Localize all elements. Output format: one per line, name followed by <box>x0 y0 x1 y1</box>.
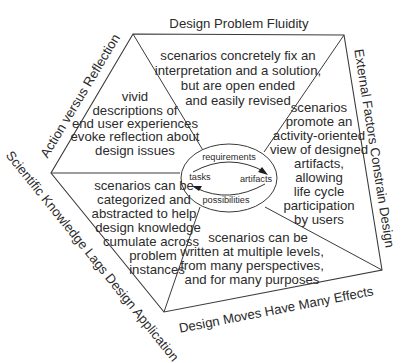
edge-label-bottom: Design Moves Have Many Effects <box>178 283 375 336</box>
cycle-label-artifacts: artifacts <box>240 174 273 184</box>
segment-top-line: scenarios concretely fix an <box>160 48 315 63</box>
segment-lower-left-line: categorized and <box>97 192 191 207</box>
segment-top-line: and easily revised <box>185 93 291 108</box>
segment-right-line: promote an <box>286 114 353 129</box>
segment-lower-left-line: abstracted to help <box>92 206 197 221</box>
segment-right-line: allowing <box>295 170 343 185</box>
segment-upper-left-text: vivid descriptions of end user experienc… <box>70 89 199 158</box>
segment-top-text: scenarios concretely fix an interpretati… <box>155 48 321 108</box>
segment-bottom-line: scenarios can be <box>208 230 308 245</box>
edge-label-top: Design Problem Fluidity <box>169 16 309 31</box>
segment-right-line: participation <box>283 198 354 213</box>
segment-bottom-line: written at multiple levels, <box>179 244 324 259</box>
segment-top-line: interpretation and a solution, <box>155 63 321 78</box>
segment-bottom-line: and for many purposes <box>185 272 320 287</box>
segment-bottom-text: scenarios can be written at multiple lev… <box>179 230 324 287</box>
segment-upper-left-line: vivid <box>122 89 148 104</box>
segment-right-line: view of designed <box>270 142 368 157</box>
segment-upper-left-line: evoke reflection about <box>70 129 199 144</box>
segment-right-line: artifacts, <box>294 156 344 171</box>
segment-upper-left-line: design issues <box>95 143 175 158</box>
segment-lower-left-line: design knowledge <box>95 220 201 235</box>
segment-right-line: by users <box>294 212 344 227</box>
segment-lower-left-line: problem <box>129 248 177 263</box>
segment-right-line: life cycle <box>294 184 345 199</box>
segment-right-text: scenarios promote an activity-oriented v… <box>270 100 368 227</box>
task-artifact-framework-diagram: requirements artifacts possibilities tas… <box>0 0 412 363</box>
cycle-label-requirements: requirements <box>202 152 256 162</box>
segment-right-line: scenarios <box>291 100 348 115</box>
segment-lower-left-line: scenarios can be <box>94 178 194 193</box>
segment-right-line: activity-oriented <box>273 128 365 143</box>
segment-lower-left-line: instances <box>129 262 185 277</box>
cycle-label-possibilities: possibilities <box>203 195 250 205</box>
segment-top-line: but are open ended <box>181 78 295 93</box>
segment-bottom-line: from many perspectives, <box>180 258 324 273</box>
